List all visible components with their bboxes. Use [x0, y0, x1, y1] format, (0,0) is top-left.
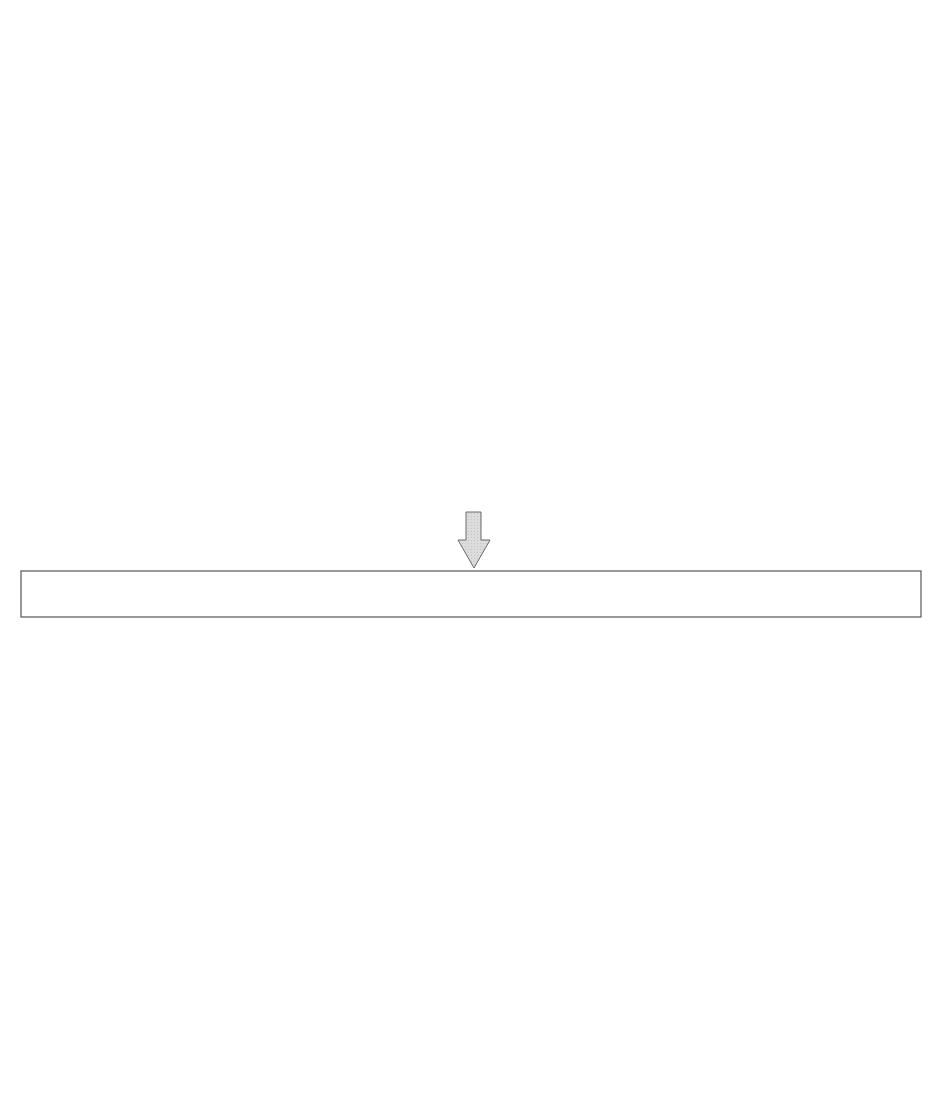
customer-box	[21, 571, 921, 617]
diagram-canvas	[0, 0, 941, 1096]
block-arrow-down-main	[458, 512, 490, 568]
